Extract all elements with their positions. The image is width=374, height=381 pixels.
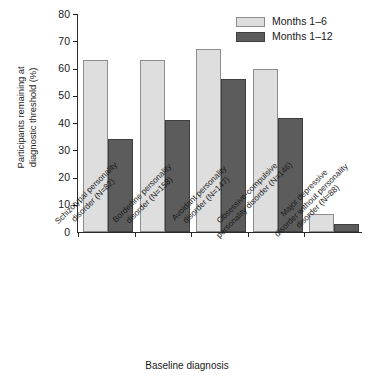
y-axis-title: Participants remaining at diagnostic thr… <box>15 18 38 218</box>
legend-label: Months 1–12 <box>272 31 333 42</box>
x-axis-title: Baseline diagnosis <box>0 360 374 371</box>
legend-label: Months 1–6 <box>272 16 327 27</box>
y-tick-label: 50 <box>44 90 70 101</box>
x-tick-mark <box>248 233 249 237</box>
y-tick-label: 20 <box>44 172 70 183</box>
legend-item: Months 1–12 <box>236 30 333 43</box>
bar <box>334 224 359 232</box>
bar-chart-figure: Participants remaining at diagnostic thr… <box>0 0 374 381</box>
legend-swatch <box>236 17 265 27</box>
legend-swatch <box>236 32 265 42</box>
y-tick-label: 80 <box>44 9 70 20</box>
x-tick-mark <box>191 233 192 237</box>
y-tick-label: 60 <box>44 63 70 74</box>
legend: Months 1–6Months 1–12 <box>236 15 333 45</box>
y-tick-label: 40 <box>44 118 70 129</box>
x-tick-mark <box>135 233 136 237</box>
legend-item: Months 1–6 <box>236 15 333 28</box>
y-tick-label: 70 <box>44 36 70 47</box>
y-tick-label: 30 <box>44 145 70 156</box>
x-tick-mark <box>78 233 79 237</box>
x-tick-mark <box>304 233 305 237</box>
